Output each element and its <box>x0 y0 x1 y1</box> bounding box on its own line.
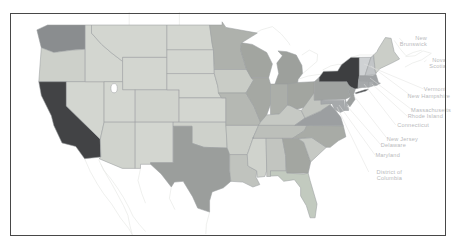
leader-line-connecticut <box>364 84 396 125</box>
state-OR <box>39 48 85 82</box>
neighbor-border-line <box>169 187 175 210</box>
annotation-label-new-brunswick: NewBrunswick <box>400 35 428 47</box>
state-WY <box>123 57 167 89</box>
annotation-label-delaware: Delaware <box>381 142 406 148</box>
state-KS <box>179 98 226 122</box>
neighbor-border-line <box>302 50 318 74</box>
neighbor-border-line <box>85 159 133 235</box>
annotation-label-rhode-island: Rhode Island <box>408 113 443 119</box>
leader-line-nova-scotia <box>424 60 427 62</box>
state-ND <box>167 25 214 50</box>
annotation-label-new-hampshire: New Hampshire <box>408 93 450 99</box>
state-AZ <box>99 122 135 168</box>
leader-line-massachusetts <box>370 78 412 110</box>
great-salt-lake <box>111 84 117 93</box>
neighbor-border-line <box>99 160 146 232</box>
neighbor-border-line <box>405 51 431 67</box>
annotation-label-vermont: Vermont <box>424 86 446 92</box>
us-choropleth-map: NewBrunswickNovaScotiaVermontNew Hampshi… <box>0 0 456 249</box>
annotation-label-maryland: Maryland <box>375 152 400 158</box>
state-CT <box>358 81 369 88</box>
state-NM <box>135 122 173 168</box>
state-FL <box>271 171 318 218</box>
annotation-label-connecticut: Connecticut <box>397 122 429 128</box>
state-MI <box>275 51 303 84</box>
states-layer <box>37 22 400 218</box>
state-SD <box>167 50 214 74</box>
state-CO <box>135 90 179 122</box>
neighbor-border-line <box>206 212 210 234</box>
state-LI <box>355 89 368 94</box>
state-WA <box>37 25 85 53</box>
annotation-label-district-of-columbia: District ofColumbia <box>376 169 402 181</box>
neighbor-border-line <box>101 164 132 235</box>
map-canvas: NewBrunswickNovaScotiaVermontNew Hampshi… <box>0 0 456 249</box>
annotation-label-nova-scotia: NovaScotia <box>429 57 446 69</box>
state-IA <box>214 70 253 94</box>
neighbor-border-line <box>138 168 146 203</box>
leader-line-delaware <box>347 106 381 145</box>
